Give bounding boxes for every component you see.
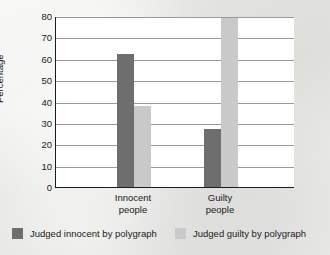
y-tick-label: 10 — [12, 162, 52, 172]
y-tick-label: 80 — [12, 12, 52, 22]
legend-label: Judged guilty by polygraph — [193, 228, 306, 239]
bar — [204, 129, 221, 187]
gridline — [56, 103, 294, 104]
gridline — [56, 124, 294, 125]
bar — [134, 106, 151, 187]
y-tick-label: 30 — [12, 119, 52, 129]
gridline — [56, 145, 294, 146]
y-tick-label: 70 — [12, 34, 52, 44]
y-tick-label: 0 — [12, 183, 52, 193]
x-tick-label-line: Guilty — [165, 192, 275, 204]
gridline — [56, 17, 294, 18]
gridline — [56, 60, 294, 61]
chart-legend: Judged innocent by polygraphJudged guilt… — [0, 228, 330, 244]
legend-swatch-icon — [12, 228, 23, 239]
gridline — [56, 81, 294, 82]
bar-chart: Percentage 01020304050607080 Innocentpeo… — [0, 0, 330, 255]
bar — [221, 18, 238, 187]
legend-item[interactable]: Judged guilty by polygraph — [175, 228, 306, 239]
legend-item[interactable]: Judged innocent by polygraph — [12, 228, 157, 239]
legend-label: Judged innocent by polygraph — [30, 228, 157, 239]
y-tick-label: 50 — [12, 76, 52, 86]
x-tick-label-line: people — [165, 204, 275, 216]
gridline — [56, 38, 294, 39]
bar — [117, 54, 134, 187]
plot-area — [55, 17, 294, 188]
x-tick-label: Guiltypeople — [165, 192, 275, 215]
y-tick-label: 20 — [12, 141, 52, 151]
y-axis-title: Percentage — [0, 54, 5, 103]
legend-swatch-icon — [175, 228, 186, 239]
y-tick-label: 40 — [12, 98, 52, 108]
gridline — [56, 167, 294, 168]
y-tick-label: 60 — [12, 55, 52, 65]
